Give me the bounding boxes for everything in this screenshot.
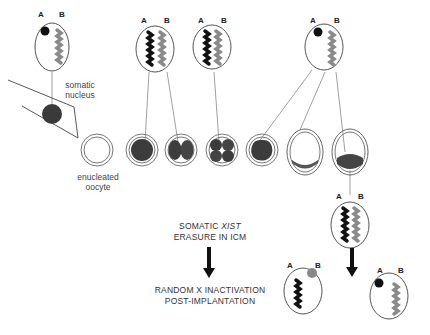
nucleus-icm <box>331 202 369 248</box>
embryo-4-cell <box>206 134 238 166</box>
embryo-1-cell <box>126 134 158 166</box>
label-b: B <box>358 192 364 201</box>
label-b: B <box>59 10 65 19</box>
caption-line: RANDOM X INACTIVATION <box>148 285 272 296</box>
caption-line: POST-IMPLANTATION <box>148 296 272 307</box>
caption-line: SOMATIC XIST <box>160 221 260 232</box>
label-b: B <box>315 261 321 270</box>
label-line: oocyte <box>70 182 126 192</box>
nucleus-somatic <box>35 23 69 71</box>
caption-random-xi: RANDOM X INACTIVATION POST-IMPLANTATION <box>148 285 272 307</box>
label-b: B <box>221 16 227 25</box>
caption-xist-erasure: SOMATIC XIST ERASURE IN ICM <box>160 221 260 243</box>
xi-body-post-right <box>375 279 384 288</box>
nucleus-blastocyst <box>305 24 343 70</box>
enucleated-oocyte <box>81 134 113 166</box>
embryo-morula <box>246 134 278 166</box>
embryo-2-cell <box>165 134 197 166</box>
label-a: A <box>310 16 316 25</box>
somatic-nucleus-label: somatic nucleus <box>60 80 100 100</box>
nucleus-4cell <box>193 25 231 69</box>
label-line: somatic <box>60 80 100 90</box>
label-a: A <box>336 192 342 201</box>
label-a: A <box>377 266 383 275</box>
label-a: A <box>198 16 204 25</box>
embryo-early-blastocyst <box>287 129 323 175</box>
label-a: A <box>38 10 44 19</box>
label-a: A <box>141 16 147 25</box>
caption-line: ERASURE IN ICM <box>160 232 260 243</box>
caption-text: SOMATIC <box>179 221 221 231</box>
embryo-blastocyst <box>332 129 368 175</box>
label-line: nucleus <box>60 90 100 100</box>
caption-italic: XIST <box>221 221 241 231</box>
nucleus-post-right <box>370 273 408 319</box>
label-b: B <box>334 16 340 25</box>
label-a: A <box>287 261 293 270</box>
arrow-down-icon-right <box>346 248 358 277</box>
xi-body-somatic <box>41 27 50 36</box>
arrow-down-icon <box>203 247 215 278</box>
xi-body-blastocyst <box>314 28 323 37</box>
label-line: enucleated <box>70 172 126 182</box>
somatic-nucleus-icon <box>42 104 62 124</box>
nucleus-2cell <box>136 26 174 72</box>
label-b: B <box>398 266 404 275</box>
enucleated-oocyte-label: enucleated oocyte <box>70 172 126 192</box>
label-b: B <box>164 16 170 25</box>
